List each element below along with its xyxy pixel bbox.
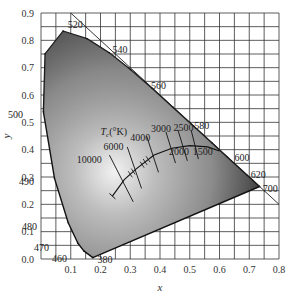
y-tick-label: 0.7: [22, 62, 35, 73]
y-tick-label: 0.5: [22, 117, 35, 128]
y-tick-label: 0.0: [22, 254, 35, 265]
x-tick-label: 0.4: [154, 264, 167, 275]
gamut-shade: [43, 31, 259, 258]
wavelength-label-560: 560: [151, 80, 166, 91]
temperature-label-3000: 3000: [151, 123, 171, 134]
wavelength-label-500: 500: [8, 109, 23, 120]
x-tick-label: 0.7: [243, 264, 256, 275]
wavelength-mark: [83, 250, 85, 252]
x-tick-label: 0.8: [273, 264, 286, 275]
wavelength-label-700: 700: [263, 183, 278, 194]
wavelength-mark: [67, 222, 69, 224]
x-tick-label: 0.3: [124, 264, 137, 275]
wavelength-label-600: 600: [234, 152, 249, 163]
wavelength-mark: [92, 257, 94, 259]
wavelength-label-460: 460: [52, 253, 67, 264]
y-tick-label: 0.9: [22, 8, 35, 19]
temperature-label-1500: 1500: [193, 146, 213, 157]
x-axis-label: x: [157, 281, 163, 293]
wavelength-label-540: 540: [112, 44, 127, 55]
wavelength-label-520: 520: [68, 19, 83, 30]
y-tick-label: 0.2: [22, 199, 35, 210]
wavelength-label-580: 580: [194, 120, 209, 131]
y-tick-label: 0.8: [22, 35, 35, 46]
wavelength-mark: [109, 52, 111, 54]
wavelength-mark: [62, 30, 64, 32]
wavelength-label-620: 620: [251, 169, 266, 180]
temperature-label-4000: 4000: [130, 132, 150, 143]
temperature-label-10000: 10000: [77, 154, 102, 165]
x-tick-label: 0.2: [94, 264, 107, 275]
wavelength-label-470: 470: [34, 242, 49, 253]
cie-chromaticity-diagram: 0.10.20.30.40.50.60.70.80.00.10.20.30.40…: [0, 0, 289, 296]
wavelength-mark: [54, 178, 56, 180]
x-tick-label: 0.1: [65, 264, 78, 275]
y-tick-label: 0.6: [22, 90, 35, 101]
x-tick-label: 0.5: [184, 264, 197, 275]
wavelength-label-490: 490: [19, 176, 34, 187]
wavelength-mark: [43, 111, 45, 113]
temperature-label-2500: 2500: [173, 122, 193, 133]
temperature-label-6000: 6000: [103, 141, 123, 152]
x-tick-label: 0.6: [213, 264, 226, 275]
wavelength-mark: [86, 38, 88, 40]
wavelength-mark: [44, 53, 46, 55]
wavelength-label-380: 380: [98, 254, 113, 265]
wavelength-label-480: 480: [22, 221, 37, 232]
y-axis-label: y: [0, 133, 12, 139]
y-tick-label: 0.4: [22, 144, 35, 155]
chart-canvas: 0.10.20.30.40.50.60.70.80.00.10.20.30.40…: [0, 0, 289, 296]
wavelength-mark: [77, 242, 79, 244]
temperature-label-2000: 2000: [169, 146, 189, 157]
